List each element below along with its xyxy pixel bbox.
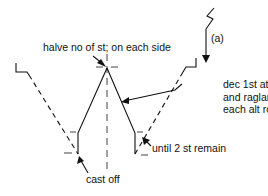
halve-stitches-label: halve no of st; on each side: [43, 41, 171, 53]
left-solid-shaping: [78, 68, 107, 154]
right-outer-corner: [183, 58, 196, 72]
right-solid-shaping: [107, 68, 135, 154]
left-dashed-raglan: [29, 75, 78, 154]
decrease-line-3: each alt row: [223, 103, 268, 116]
decrease-line-1: dec 1st at neck: [223, 78, 268, 91]
zigzag-break-icon: [206, 8, 214, 29]
decrease-instruction-block: dec 1st at neck and raglan edge each alt…: [223, 78, 268, 116]
left-outer-corner: [16, 63, 29, 75]
cast-off-label: cast off: [86, 173, 120, 185]
cast-off-arrowhead-icon: [77, 156, 84, 164]
until-remain-label: until 2 st remain: [152, 142, 226, 154]
arrow-a-head-icon: [202, 55, 210, 63]
decrease-line-2: and raglan edge: [223, 91, 268, 104]
dec-pointer-line: [124, 84, 182, 101]
arrow-a-label: (a): [211, 32, 224, 44]
